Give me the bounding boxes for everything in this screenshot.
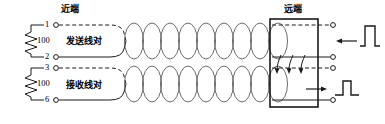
twisted-pair-receive <box>125 66 288 102</box>
resistor-receive-value: 100 <box>37 78 50 88</box>
terminal-3-label: 3 <box>45 62 49 72</box>
terminal-2-node <box>54 55 59 60</box>
transmit-pair-label: 发送线对 <box>66 34 102 47</box>
near-end-label: 近端 <box>61 2 79 15</box>
terminal-6-node <box>54 98 59 103</box>
terminal-1-label: 1 <box>45 19 49 29</box>
far-terminal-2-node <box>331 55 336 60</box>
twisted-pair-transmit <box>125 23 288 59</box>
terminal-6-label: 6 <box>45 94 49 104</box>
coupling-arrow-1-head <box>275 68 280 74</box>
pulse-small-waveform <box>335 81 359 95</box>
far-end-label: 远端 <box>284 2 302 15</box>
crosstalk-diagram: 近端 远端 发送线对 接收线对 1 2 3 6 100 100 <box>0 0 385 124</box>
terminal-1-node <box>54 23 59 28</box>
terminal-3-node <box>54 66 59 71</box>
far-end-box <box>270 19 318 107</box>
diagram-canvas <box>0 0 385 124</box>
far-terminal-6-node <box>331 98 336 103</box>
terminal-2-label: 2 <box>45 51 49 61</box>
crosstalk-signal-arrow <box>306 86 327 91</box>
resistor-transmit-value: 100 <box>37 35 50 45</box>
coupling-arrow-3-head <box>299 68 304 74</box>
far-terminal-3-node <box>331 66 336 71</box>
incoming-signal-arrow <box>336 38 357 43</box>
receive-pair-label: 接收线对 <box>66 78 102 91</box>
coupling-arrow-2-head <box>287 68 292 74</box>
pulse-large-waveform <box>360 26 380 46</box>
far-terminal-1-node <box>331 23 336 28</box>
coupling-arrows <box>275 55 305 74</box>
